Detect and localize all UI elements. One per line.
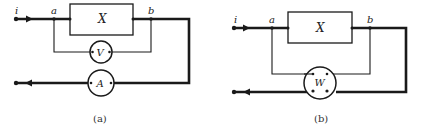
caption-b: (b) [314, 113, 328, 124]
wattmeter-label: W [315, 77, 326, 88]
wattmeter-voltage-terminal-left [312, 73, 315, 76]
circuit-figure: i a X b V A (a) i [0, 0, 423, 133]
ammeter-label: A [96, 78, 104, 89]
output-terminal-b [232, 90, 236, 94]
current-arrow-out-a-icon [25, 80, 32, 87]
node-a-label: a [51, 5, 57, 16]
current-arrow-out-b-icon [243, 89, 250, 96]
input-terminal-a [14, 17, 18, 21]
voltmeter-terminal-right [108, 51, 111, 54]
wattmeter-current-terminal-left [311, 89, 314, 92]
node-a-label-b: a [269, 14, 275, 25]
x-terminal-left-b [287, 27, 290, 30]
wattmeter-voltage-terminal-right [326, 73, 329, 76]
current-arrow-in-a-icon [26, 16, 33, 23]
current-label-b: i [234, 14, 237, 25]
panel-a: i a X b V A (a) [14, 4, 189, 124]
element-x-label-b: X [315, 21, 325, 35]
wattmeter-current-terminal-right [325, 89, 328, 92]
current-label-a: i [15, 5, 18, 16]
ammeter-terminal-left [90, 82, 93, 85]
node-b-label-b: b [367, 14, 373, 25]
element-x-label: X [97, 12, 107, 26]
node-b-label: b [148, 5, 154, 16]
input-terminal-b [232, 26, 236, 30]
output-terminal-a [14, 81, 18, 85]
current-arrow-in-b-icon [243, 25, 250, 32]
voltmeter-terminal-left [91, 51, 94, 54]
caption-a: (a) [93, 113, 107, 124]
panel-b: i a X b W (b) [232, 12, 406, 124]
ammeter-terminal-right [110, 82, 113, 85]
x-terminal-left [69, 18, 72, 21]
